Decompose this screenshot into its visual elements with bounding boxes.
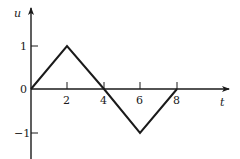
y-tick-label-minus-1: −1 — [14, 127, 30, 140]
y-axis-label: u — [14, 7, 21, 20]
y-tick-label-1: 1 — [20, 40, 27, 53]
y-tick-label-0: 0 — [20, 83, 27, 96]
x-axis-label: t — [220, 96, 225, 109]
chart: u t 1 0 −1 2 4 6 8 — [0, 0, 240, 159]
x-tick-label-2: 2 — [63, 94, 70, 107]
x-tick-label-6: 6 — [136, 94, 143, 107]
x-tick-label-8: 8 — [173, 94, 180, 107]
x-tick-label-4: 4 — [100, 94, 107, 107]
